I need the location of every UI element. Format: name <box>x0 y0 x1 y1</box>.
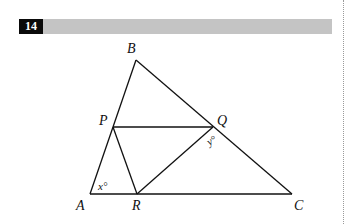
vertex-label-r: R <box>131 198 141 213</box>
segment-pr <box>113 127 137 194</box>
triangle-diagram: B P Q A R C x° y° <box>0 0 351 224</box>
vertex-label-c: C <box>294 198 304 213</box>
vertex-label-b: B <box>127 41 136 56</box>
vertex-label-a: A <box>75 198 85 213</box>
angle-label-x: x° <box>97 180 108 192</box>
segment-qr <box>137 127 213 194</box>
vertex-label-q: Q <box>217 113 227 128</box>
vertex-label-p: P <box>98 113 108 128</box>
angle-label-y: y° <box>203 132 218 148</box>
